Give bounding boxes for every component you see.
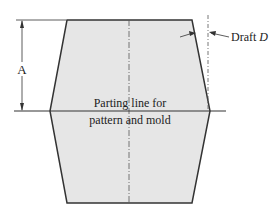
draft-arrow-right-head [209,31,216,36]
parting-line-caption-1: Parting line for [94,96,167,110]
pattern-draft-diagram: A Draft D Parting line for pattern and m… [0,0,280,214]
dimension-a-label: A [17,62,27,77]
dimension-arrow-top [20,20,24,28]
dimension-arrow-bottom [20,103,24,111]
draft-label: Draft D [231,30,268,44]
parting-line-caption-2: pattern and mold [89,113,170,127]
